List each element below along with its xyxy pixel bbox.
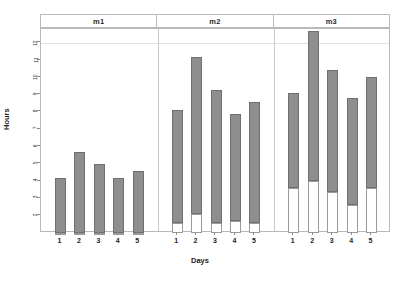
bar	[55, 178, 66, 233]
panel-strip-label: m1	[93, 17, 104, 26]
y-axis: 12111098765432	[0, 28, 40, 232]
bar	[113, 178, 124, 233]
y-tick-label: 6	[34, 144, 39, 147]
bar	[211, 90, 222, 233]
x-tick-mark	[78, 232, 79, 235]
y-tick-label: 12	[34, 40, 39, 46]
x-tick-label: 4	[112, 237, 124, 244]
x-tick-mark	[253, 232, 254, 235]
plot-area	[40, 28, 390, 232]
bar-segment-top	[191, 57, 202, 214]
x-tick-group-m1: 12345	[40, 232, 157, 252]
bar-segment-top	[133, 171, 144, 233]
bar-segment-base	[347, 205, 358, 233]
x-tick-label: 2	[190, 237, 202, 244]
bar	[249, 102, 260, 233]
bar-segment-top	[327, 70, 338, 191]
bar	[347, 98, 358, 233]
bar-segment-base	[366, 188, 377, 233]
x-tick-label: 2	[306, 237, 318, 244]
x-tick-mark	[98, 232, 99, 235]
bar-segment-top	[288, 93, 299, 188]
gridline-horizontal	[41, 43, 389, 44]
x-tick-label: 1	[287, 237, 299, 244]
bar	[94, 164, 105, 233]
bar	[230, 114, 241, 233]
y-tick-label: 11	[34, 58, 39, 63]
x-axis: 123451234512345	[40, 232, 390, 252]
y-tick-label: 9	[34, 92, 39, 95]
panel-strip-label: m3	[326, 17, 337, 26]
x-tick-label: 1	[170, 237, 182, 244]
x-tick-label: 2	[73, 237, 85, 244]
panel-strip-cell-m1: m1	[41, 15, 157, 27]
x-tick-label: 3	[92, 237, 104, 244]
y-tick-label: 7	[34, 127, 39, 130]
y-tick-label: 5	[34, 161, 39, 164]
y-axis-title: Hours	[2, 108, 11, 130]
panel-strip-cell-m3: m3	[274, 15, 389, 27]
x-tick-label: 4	[345, 237, 357, 244]
x-tick-mark	[214, 232, 215, 235]
bar	[191, 57, 202, 233]
y-tick-label: 8	[34, 109, 39, 112]
x-tick-label: 3	[326, 237, 338, 244]
panel-strip-cell-m2: m2	[157, 15, 273, 27]
x-tick-mark	[370, 232, 371, 235]
bar-segment-base	[327, 192, 338, 233]
bar-segment-top	[347, 98, 358, 205]
x-tick-group-m2: 12345	[157, 232, 274, 252]
bar-segment-top	[230, 114, 241, 221]
x-tick-mark	[351, 232, 352, 235]
bar-segment-top	[94, 164, 105, 233]
panel-divider	[274, 29, 275, 231]
x-tick-mark	[137, 232, 138, 235]
x-tick-mark	[292, 232, 293, 235]
bar-segment-top	[249, 102, 260, 223]
bar	[308, 31, 319, 233]
panel-strip: m1 m2 m3	[40, 14, 390, 28]
panel-divider	[158, 29, 159, 231]
x-tick-mark	[234, 232, 235, 235]
x-tick-mark	[331, 232, 332, 235]
bar	[172, 110, 183, 233]
x-tick-mark	[117, 232, 118, 235]
x-tick-label: 5	[131, 237, 143, 244]
x-tick-label: 5	[365, 237, 377, 244]
y-tick-label: 4	[34, 179, 39, 182]
bar-segment-base	[288, 188, 299, 233]
chart-root: m1 m2 m3 12111098765432 Hours 1234512345…	[0, 0, 400, 292]
x-tick-mark	[195, 232, 196, 235]
bar	[327, 70, 338, 233]
bar-segment-top	[366, 77, 377, 188]
bar-segment-top	[211, 90, 222, 223]
bar	[133, 171, 144, 233]
panel-strip-label: m2	[209, 17, 220, 26]
bar	[288, 93, 299, 233]
x-tick-mark	[312, 232, 313, 235]
x-tick-group-m3: 12345	[273, 232, 390, 252]
y-tick-label: 2	[34, 213, 39, 216]
y-tick-label: 3	[34, 196, 39, 199]
bar-segment-top	[308, 31, 319, 181]
bar-segment-top	[113, 178, 124, 233]
y-tick-label: 10	[34, 75, 39, 81]
bar-segment-top	[74, 152, 85, 233]
bar-segment-base	[191, 214, 202, 233]
bar-segment-top	[172, 110, 183, 222]
bar	[366, 77, 377, 233]
x-tick-label: 1	[53, 237, 65, 244]
bar	[74, 152, 85, 233]
x-tick-mark	[176, 232, 177, 235]
x-axis-title: Days	[0, 256, 400, 265]
x-tick-label: 5	[248, 237, 260, 244]
x-tick-label: 3	[209, 237, 221, 244]
bar-segment-top	[55, 178, 66, 233]
x-tick-label: 4	[228, 237, 240, 244]
x-tick-mark	[59, 232, 60, 235]
bar-segment-base	[308, 181, 319, 233]
